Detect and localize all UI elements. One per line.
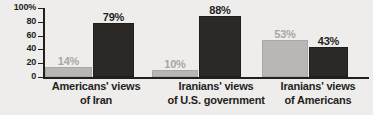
bar-value-label: 88% xyxy=(209,4,230,16)
bar-unfavorable-3: 43% xyxy=(309,47,348,77)
y-tick-100: 100% xyxy=(0,8,44,9)
y-tick-label: 20 xyxy=(26,57,36,67)
category-label-2: Iranians' views of U.S. government xyxy=(152,80,280,108)
y-tick-label: 60 xyxy=(26,30,36,40)
y-tick-40: 40 xyxy=(0,49,44,50)
y-tick-label: 80 xyxy=(26,16,36,26)
bar-value-label: 53% xyxy=(274,28,295,40)
bar-unfavorable-2: 88% xyxy=(199,16,241,77)
category-label-1: Americans' views of Iran xyxy=(36,80,156,108)
bar-favorable-1: 14% xyxy=(45,67,92,77)
bar-group-2: 10% 88% xyxy=(152,8,241,77)
bar-favorable-2: 10% xyxy=(152,70,198,77)
category-label-line1: Iranians' views xyxy=(281,80,356,92)
bar-value-label: 10% xyxy=(164,58,185,70)
category-label-line1: Iranians' views xyxy=(179,80,254,92)
bar-favorable-3: 53% xyxy=(262,40,308,77)
bar-value-label: 43% xyxy=(318,35,339,47)
bar-unfavorable-1: 79% xyxy=(93,23,134,78)
category-label-line1: Americans' views xyxy=(52,80,141,92)
plot-area: 14% 79% 10% 88% 53% 43% xyxy=(44,8,364,77)
category-label-line2: of U.S. government xyxy=(152,94,280,108)
y-axis: 100% 80 60 40 20 0 xyxy=(0,8,44,77)
x-axis-line xyxy=(43,77,369,79)
y-tick-20: 20 xyxy=(0,63,44,64)
bar-value-label: 79% xyxy=(103,11,124,23)
y-tick-label: 100% xyxy=(14,2,36,12)
bar-group-3: 53% 43% xyxy=(262,8,348,77)
bar-value-label: 14% xyxy=(58,55,79,67)
y-tick-label: 40 xyxy=(26,43,36,53)
y-tick-60: 60 xyxy=(0,36,44,37)
y-tick-80: 80 xyxy=(0,22,44,23)
category-label-3: Iranians' views of Americans xyxy=(268,80,368,108)
category-label-line2: of Iran xyxy=(36,94,156,108)
bar-group-1: 14% 79% xyxy=(45,8,135,77)
category-label-line2: of Americans xyxy=(268,94,368,108)
bar-chart: 100% 80 60 40 20 0 14% xyxy=(0,0,373,115)
y-tick-0: 0 xyxy=(0,77,44,78)
